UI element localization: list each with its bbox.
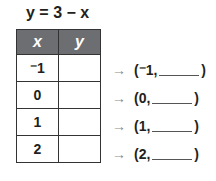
x-cell: 2	[17, 136, 59, 163]
answer-blank[interactable]	[159, 65, 199, 76]
table-row: 0	[17, 82, 101, 109]
y-cell[interactable]	[59, 82, 101, 109]
answer-blank[interactable]	[152, 121, 192, 132]
pair-close: )	[194, 146, 199, 162]
answer-blank[interactable]	[152, 149, 192, 160]
ordered-pair: → (⁻1, )	[112, 62, 206, 78]
ordered-pair: → (0, )	[112, 90, 199, 106]
answer-blank[interactable]	[152, 93, 192, 104]
y-cell[interactable]	[59, 55, 101, 82]
pair-close: )	[201, 62, 206, 78]
table-row: ⁻1	[17, 55, 101, 82]
pair-open: (0,	[134, 90, 150, 106]
arrow-right-icon: →	[112, 118, 126, 134]
xy-table: x y ⁻1 0 1 2	[16, 29, 101, 163]
header-y: y	[59, 30, 101, 55]
x-cell: 0	[17, 82, 59, 109]
table-row: 1	[17, 109, 101, 136]
y-cell[interactable]	[59, 109, 101, 136]
pair-close: )	[194, 90, 199, 106]
pair-open: (1,	[134, 118, 150, 134]
ordered-pair: → (2, )	[112, 146, 199, 162]
equation-title: y = 3 − x	[26, 4, 89, 22]
pair-close: )	[194, 118, 199, 134]
header-x: x	[17, 30, 59, 55]
arrow-right-icon: →	[112, 62, 126, 78]
arrow-right-icon: →	[112, 90, 126, 106]
table-row: 2	[17, 136, 101, 163]
ordered-pair: → (1, )	[112, 118, 199, 134]
pair-open: (2,	[134, 146, 150, 162]
y-cell[interactable]	[59, 136, 101, 163]
pair-open: (⁻1,	[134, 62, 157, 78]
arrow-right-icon: →	[112, 146, 126, 162]
x-cell: ⁻1	[17, 55, 59, 82]
x-cell: 1	[17, 109, 59, 136]
